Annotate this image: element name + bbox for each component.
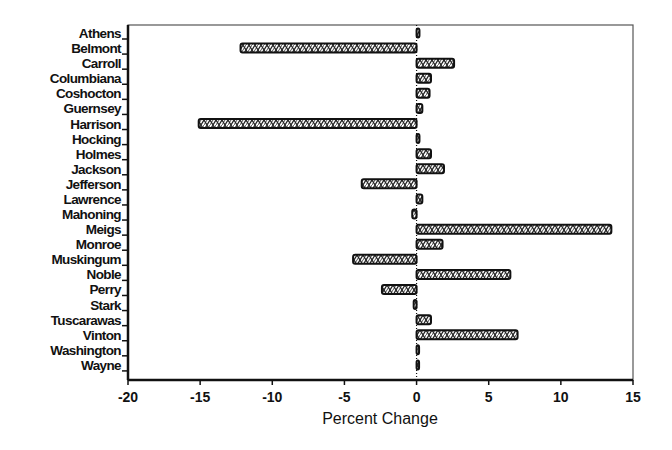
category-label: Washington xyxy=(50,343,121,358)
bar-jefferson xyxy=(362,179,417,188)
bar-coshocton xyxy=(417,89,430,98)
category-label: Perry xyxy=(89,282,122,297)
bar-chart: AthensBelmontCarrollColumbianaCoshoctonG… xyxy=(0,0,672,450)
category-label: Lawrence xyxy=(64,192,123,207)
bars xyxy=(199,29,612,370)
bar-lawrence xyxy=(417,194,423,203)
category-label: Holmes xyxy=(76,147,121,162)
category-label: Guernsey xyxy=(64,101,123,116)
x-tick-label: -20 xyxy=(118,389,138,405)
bar-mahoning xyxy=(412,210,416,219)
bar-belmont xyxy=(241,44,417,53)
category-label: Muskingum xyxy=(51,252,121,267)
category-label: Jackson xyxy=(71,162,121,177)
category-label: Vinton xyxy=(83,328,121,343)
category-label: Mahoning xyxy=(62,207,121,222)
category-label: Stark xyxy=(90,298,122,313)
category-label: Wayne xyxy=(81,358,122,373)
category-label: Carroll xyxy=(82,56,121,71)
category-label: Noble xyxy=(86,267,122,282)
bar-guernsey xyxy=(417,104,423,113)
y-axis: AthensBelmontCarrollColumbianaCoshoctonG… xyxy=(50,25,128,380)
bar-wayne xyxy=(417,360,420,369)
plot-border xyxy=(128,25,633,380)
bar-hocking xyxy=(417,134,420,143)
bar-noble xyxy=(417,270,511,279)
category-label: Tuscarawas xyxy=(51,313,121,328)
x-tick-label: 5 xyxy=(485,389,493,405)
bar-holmes xyxy=(417,149,431,158)
bar-columbiana xyxy=(417,74,431,83)
x-tick-label: -5 xyxy=(338,389,351,405)
x-tick-label: -10 xyxy=(262,389,282,405)
bar-athens xyxy=(417,29,420,38)
category-label: Meigs xyxy=(86,222,121,237)
bar-stark xyxy=(414,300,417,309)
bar-vinton xyxy=(417,330,518,339)
bar-tuscarawas xyxy=(417,315,431,324)
category-label: Jefferson xyxy=(66,177,122,192)
bar-meigs xyxy=(417,225,612,234)
bar-muskingum xyxy=(353,255,416,264)
x-tick-label: 10 xyxy=(553,389,569,405)
category-label: Coshocton xyxy=(56,86,121,101)
plot-frame xyxy=(128,25,633,380)
category-label: Monroe xyxy=(76,237,122,252)
bar-harrison xyxy=(199,119,417,128)
category-label: Belmont xyxy=(71,41,122,56)
x-axis-title: Percent Change xyxy=(322,410,438,427)
category-label: Columbiana xyxy=(50,71,122,86)
category-label: Hocking xyxy=(72,132,121,147)
x-tick-label: -15 xyxy=(190,389,210,405)
x-axis: -20-15-10-5051015 xyxy=(118,380,641,405)
x-tick-label: 0 xyxy=(413,389,421,405)
category-label: Athens xyxy=(79,26,121,41)
bar-carroll xyxy=(417,59,455,68)
bar-washington xyxy=(417,345,420,354)
x-tick-label: 15 xyxy=(625,389,641,405)
bar-jackson xyxy=(417,164,444,173)
bar-monroe xyxy=(417,240,443,249)
category-label: Harrison xyxy=(70,117,121,132)
bar-perry xyxy=(382,285,417,294)
